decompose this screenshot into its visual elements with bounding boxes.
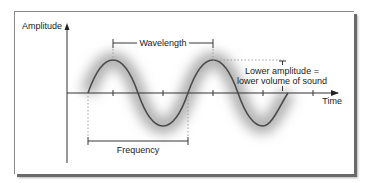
y-axis-label: Amplitude [22, 21, 62, 31]
y-axis-arrow-icon [65, 23, 70, 30]
amplitude-note-line1: Lower amplitude = [245, 66, 319, 76]
amplitude-note-line2: lower volume of sound [237, 76, 327, 86]
wavelength-label: Wavelength [139, 38, 186, 48]
x-axis-label: Time [322, 96, 342, 106]
frequency-label: Frequency [117, 145, 160, 155]
sound-wave-diagram: Wavelength Frequency Lower amplitude = l… [0, 0, 370, 183]
